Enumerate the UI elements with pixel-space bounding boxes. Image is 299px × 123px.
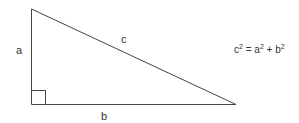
- right-angle-marker: [32, 91, 46, 105]
- pythagorean-equation: c2 = a2 + b2: [234, 44, 285, 56]
- eq-plus: +: [264, 44, 275, 55]
- triangle-diagram: [0, 0, 299, 123]
- label-c: c: [121, 34, 127, 45]
- eq-b-exp: 2: [281, 43, 285, 50]
- side-c-hypotenuse: [32, 9, 237, 105]
- label-b: b: [101, 111, 107, 122]
- label-a: a: [16, 45, 22, 56]
- eq-equals: =: [243, 44, 254, 55]
